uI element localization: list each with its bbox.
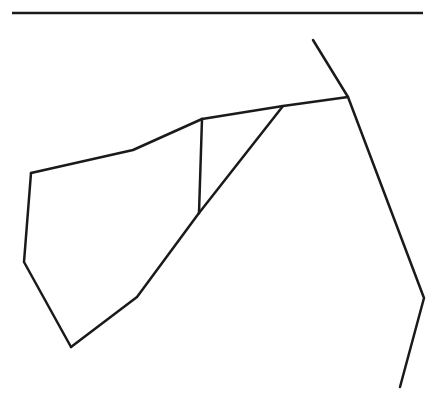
polygon-edge-top-left bbox=[31, 119, 202, 173]
polygon-edge-left bbox=[24, 173, 71, 347]
diagram-canvas bbox=[0, 0, 444, 406]
diagram-segments bbox=[24, 40, 424, 387]
right-boundary-line bbox=[313, 40, 424, 387]
polygon-edge-bottom bbox=[71, 213, 199, 347]
vertical-edge bbox=[199, 119, 202, 213]
diagonal-edge bbox=[199, 106, 283, 213]
